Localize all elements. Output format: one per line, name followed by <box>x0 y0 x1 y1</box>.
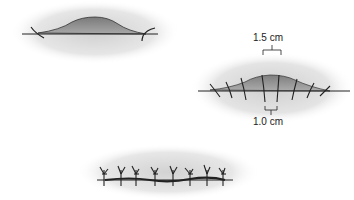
panel-wound-open <box>0 0 200 80</box>
panel-wound-measured: 1.5 cm 1.0 cm <box>190 30 354 130</box>
wound-measured-illustration <box>190 30 354 130</box>
wound-closed-illustration <box>70 130 270 200</box>
panel-wound-closed <box>70 130 270 200</box>
suture-spacing-label: 1.5 cm <box>253 32 283 43</box>
bite-distance-label: 1.0 cm <box>253 116 283 127</box>
wound-open-illustration <box>0 0 200 80</box>
